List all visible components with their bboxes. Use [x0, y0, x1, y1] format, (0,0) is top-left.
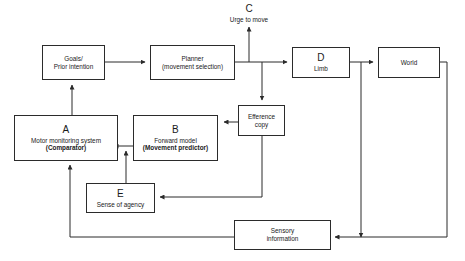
node-goals-line2: Prior intention: [54, 63, 93, 71]
node-forward-letter: B: [172, 124, 179, 136]
label-urge-sub: Urge to move: [209, 16, 289, 24]
node-forward-line2: (Movement predictor): [143, 144, 208, 152]
node-sensory-information[interactable]: Sensory information: [234, 220, 331, 250]
node-efference-line2: copy: [255, 121, 269, 129]
node-world[interactable]: World: [378, 47, 440, 78]
node-sense-of-agency[interactable]: E Sense of agency: [86, 183, 155, 213]
node-motor-monitoring-system[interactable]: A Motor monitoring system (Comparator): [14, 115, 118, 161]
node-planner-line1: Planner: [181, 55, 203, 63]
node-forward-model[interactable]: B Forward model (Movement predictor): [133, 115, 218, 161]
node-forward-line1: Forward model: [154, 137, 197, 145]
node-limb-letter: D: [317, 52, 324, 64]
label-urge-to-move: C Urge to move: [209, 3, 289, 24]
connector-world-to-sensory: [335, 62, 447, 237]
node-goals-line1: Goals/: [64, 55, 82, 63]
node-comparator-line1: Motor monitoring system: [31, 137, 101, 145]
node-limb-line1: Limb: [314, 65, 328, 73]
node-sensory-line1: Sensory: [271, 227, 294, 235]
node-efference-line1: Efference: [248, 113, 275, 121]
node-goals-prior-intention[interactable]: Goals/ Prior intention: [42, 45, 105, 80]
node-efference-copy[interactable]: Efference copy: [238, 105, 285, 136]
node-sensory-line2: information: [267, 235, 299, 243]
label-urge-letter: C: [209, 3, 289, 15]
node-world-line1: World: [401, 59, 418, 67]
node-limb[interactable]: D Limb: [292, 47, 350, 78]
diagram-canvas: Goals/ Prior intention Planner (movement…: [0, 0, 465, 261]
node-planner-line2: (movement selection): [162, 63, 223, 71]
node-agency-line1: Sense of agency: [97, 201, 145, 209]
node-agency-letter: E: [117, 188, 124, 200]
node-comparator-line2: (Comparator): [46, 144, 86, 152]
node-comparator-letter: A: [63, 124, 70, 136]
node-planner[interactable]: Planner (movement selection): [150, 45, 235, 80]
